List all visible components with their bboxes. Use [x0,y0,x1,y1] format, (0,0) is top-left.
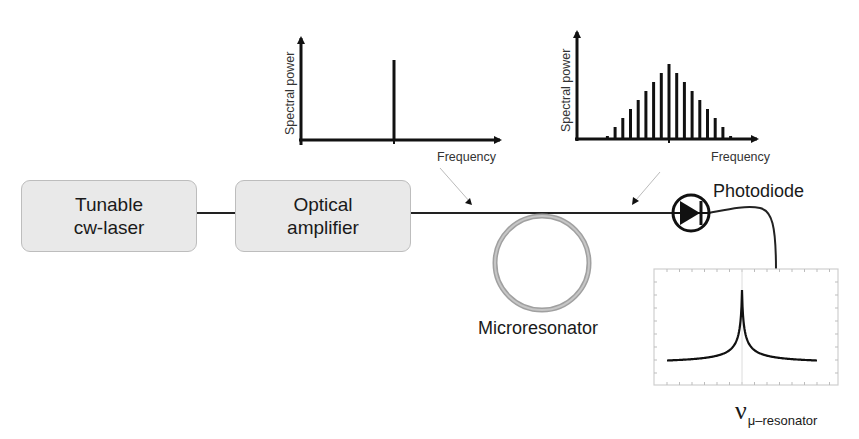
input-spectrum-xlabel: Frequency [437,150,496,164]
photodiode-icon [673,195,709,231]
laser-label-line1: Tunable [75,193,143,216]
microresonator-label: Microresonator [478,318,598,339]
amplifier-label-line2: amplifier [287,216,359,239]
comb-spectrum-plot [575,32,757,143]
optical-amplifier-block: Optical amplifier [235,180,411,252]
comb-spectrum-xlabel: Frequency [711,150,770,164]
fiber-photodiode-output [709,207,776,270]
pointer-output-spectrum [636,172,660,200]
laser-label-line2: cw-laser [74,216,145,239]
pointer-input-spectrum [440,168,470,202]
plot-frame [654,269,838,385]
resonance-plot [654,269,838,385]
nu-symbol: ν [735,396,747,425]
photodiode-label: Photodiode [713,181,804,202]
comb-spectrum-ylabel: Spectral power [559,49,573,132]
input-spectrum-plot [299,38,500,145]
amplifier-label-line1: Optical [293,193,352,216]
tunable-cw-laser-block: Tunable cw-laser [21,180,197,252]
resonance-frequency-label: νμ–resonator [735,396,817,426]
nu-subscript: μ–resonator [748,413,818,428]
input-spectrum-ylabel: Spectral power [283,52,297,135]
